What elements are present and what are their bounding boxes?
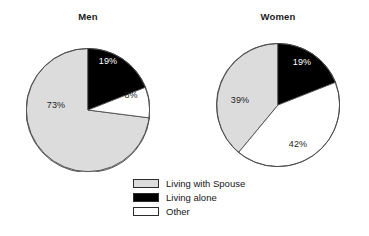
pie-chart-figure: Men Women 19% 8% 73% 19% 39% 42% (0, 0, 369, 236)
legend: Living with Spouse Living alone Other (133, 177, 283, 219)
chart-title-women: Women (246, 11, 310, 22)
pie-chart-men (26, 48, 150, 172)
legend-item-living-alone: Living alone (133, 191, 283, 205)
legend-item-other: Other (133, 205, 283, 219)
pie-label-women-other: 42% (282, 139, 314, 149)
legend-swatch-living-with-spouse (133, 179, 159, 188)
chart-title-men: Men (58, 11, 118, 22)
legend-swatch-other (133, 207, 159, 216)
pie-label-men-living-alone: 19% (92, 56, 124, 66)
legend-label-living-with-spouse: Living with Spouse (166, 179, 245, 189)
legend-label-living-alone: Living alone (166, 193, 217, 203)
legend-swatch-living-alone (133, 193, 159, 202)
pie-label-men-living-with-spouse: 73% (38, 100, 74, 110)
pie-label-women-living-with-spouse: 39% (222, 95, 258, 105)
pie-chart-women (216, 43, 340, 167)
pie-label-men-other: 8% (117, 90, 145, 100)
legend-label-other: Other (166, 207, 190, 217)
legend-item-living-with-spouse: Living with Spouse (133, 177, 283, 191)
pie-label-women-living-alone: 19% (286, 57, 318, 67)
